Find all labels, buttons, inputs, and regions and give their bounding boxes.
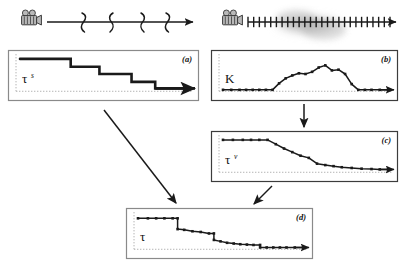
data-point-marker [230, 89, 233, 92]
panel-d: τ(d) [127, 209, 313, 259]
panel-letter: (c) [382, 135, 392, 145]
data-point-marker [299, 154, 302, 157]
data-point-marker [176, 217, 179, 220]
data-point-marker [360, 167, 363, 170]
data-point-marker [246, 243, 249, 246]
data-point-marker [378, 168, 381, 171]
data-point-marker [357, 89, 360, 92]
data-point-marker [344, 73, 347, 76]
data-point-marker [378, 89, 381, 92]
data-point-marker [258, 89, 261, 92]
data-point-marker [238, 89, 241, 92]
curve-label: τ [140, 229, 145, 244]
data-point-marker [259, 246, 262, 249]
arrow-a-to-d [104, 110, 176, 203]
data-point-marker [364, 89, 367, 92]
data-point-marker [199, 231, 202, 234]
data-point-marker [316, 162, 319, 165]
data-point-marker [232, 139, 235, 142]
data-point-marker [266, 139, 269, 142]
data-point-marker [370, 89, 373, 92]
timeline-dense [223, 10, 396, 40]
data-point-marker [259, 244, 262, 247]
data-point-marker [208, 232, 211, 235]
data-point-marker [302, 246, 305, 249]
data-point-marker [275, 143, 278, 146]
data-point-marker [213, 239, 216, 242]
data-point-marker [284, 77, 287, 80]
data-point-marker [387, 89, 390, 92]
data-point-marker [155, 217, 158, 220]
data-point-marker [311, 71, 314, 74]
arrow-c-to-d [254, 186, 272, 204]
data-point-marker [387, 168, 390, 171]
panels-layer: τs(a)Κ(b)τv(c)τ(d) [9, 51, 398, 259]
data-point-marker [137, 217, 140, 220]
data-point-marker [350, 83, 353, 86]
data-point-marker [332, 165, 335, 168]
data-point-marker [291, 74, 294, 77]
data-point-marker [239, 243, 242, 246]
data-point-marker [283, 147, 286, 150]
data-point-marker [279, 246, 282, 249]
data-point-marker [265, 246, 268, 249]
diagram-svg: τs(a)Κ(b)τv(c)τ(d) [0, 0, 406, 273]
data-point-marker [213, 232, 216, 235]
data-point-marker [293, 246, 296, 249]
data-point-marker [298, 72, 301, 75]
data-point-marker [370, 168, 373, 171]
data-point-marker [250, 139, 253, 142]
panel-b: Κ(b) [212, 51, 398, 101]
movie-camera-icon [22, 10, 42, 25]
panel-frame [127, 209, 313, 259]
data-point-marker [242, 139, 245, 142]
movie-camera-icon [223, 10, 243, 25]
timeline-sparse [22, 10, 193, 32]
data-point-marker [222, 139, 225, 142]
data-point-marker [219, 240, 222, 243]
data-point-marker [258, 139, 261, 142]
data-point-marker [271, 89, 274, 92]
data-point-marker [176, 228, 179, 231]
data-point-marker [331, 69, 334, 72]
data-point-marker [308, 157, 311, 160]
panel-c: τv(c) [212, 132, 398, 182]
data-point-marker [324, 164, 327, 167]
data-point-marker [251, 89, 254, 92]
data-point-marker [341, 166, 344, 169]
data-point-marker [278, 82, 281, 85]
panel-letter: (b) [381, 54, 391, 64]
panel-letter: (d) [296, 212, 306, 222]
data-point-marker [324, 64, 327, 67]
panel-letter: (a) [182, 54, 192, 64]
data-point-marker [147, 217, 150, 220]
data-point-marker [265, 89, 268, 92]
data-point-marker [350, 167, 353, 170]
data-point-marker [291, 151, 294, 154]
data-point-marker [272, 246, 275, 249]
data-point-marker [304, 73, 307, 76]
data-point-marker [171, 217, 174, 220]
curve-label: Κ [225, 71, 235, 86]
data-point-marker [232, 242, 235, 245]
panel-a: τs(a) [9, 51, 199, 101]
data-point-marker [317, 66, 320, 69]
curve-label: τ [22, 71, 27, 86]
panel-frame [212, 51, 398, 101]
data-point-marker [285, 246, 288, 249]
data-point-marker [191, 230, 194, 233]
curve-label-superscript: s [31, 71, 34, 80]
data-point-marker [183, 229, 186, 232]
figure-canvas: τs(a)Κ(b)τv(c)τ(d) [0, 0, 406, 273]
data-point-marker [222, 89, 225, 92]
curve-label: τ [225, 152, 230, 167]
data-point-marker [245, 89, 248, 92]
data-point-marker [252, 244, 255, 247]
data-point-marker [163, 217, 166, 220]
data-point-marker [337, 68, 340, 71]
data-point-marker [226, 242, 229, 245]
